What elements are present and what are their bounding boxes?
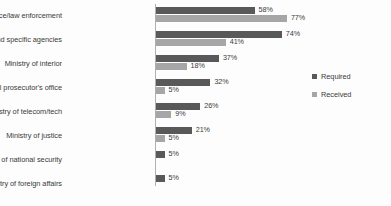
- chart-category-row: National police/law enforcement58%77%: [0, 4, 300, 28]
- category-label: Ministry of national security: [0, 156, 62, 164]
- bar-required: [156, 151, 165, 158]
- category-label: General prosecutor's office: [0, 84, 62, 92]
- bar-chart: National police/law enforcement58%77%Mul…: [0, 0, 391, 206]
- bar-group: 21%5%: [156, 124, 391, 148]
- legend-swatch-icon: [312, 74, 317, 79]
- bar-value-label: 26%: [204, 101, 218, 110]
- bar-required: [156, 79, 210, 86]
- legend-label: Received: [321, 90, 351, 99]
- category-label: Ministry of interior: [0, 60, 62, 68]
- bar-value-label: 77%: [291, 13, 305, 22]
- bar-value-label: 58%: [259, 5, 273, 14]
- legend-swatch-icon: [312, 92, 317, 97]
- bar-value-label: 74%: [286, 29, 300, 38]
- bar-received: [156, 135, 165, 142]
- chart-category-row: Ministry of telecom/tech26%9%: [0, 100, 300, 124]
- legend-label: Required: [321, 72, 351, 81]
- legend-item[interactable]: Required: [312, 70, 351, 83]
- bar-value-label: 32%: [214, 77, 228, 86]
- bar-group: 26%9%: [156, 100, 391, 124]
- category-label: Ministry of justice: [0, 132, 62, 140]
- chart-category-row: Multiple and specific agencies74%41%: [0, 28, 300, 52]
- bar-value-label: 9%: [175, 109, 185, 118]
- chart-legend: RequiredReceived: [312, 70, 351, 106]
- bar-required: [156, 31, 282, 38]
- bar-received: [156, 39, 226, 46]
- bar-group: 58%77%: [156, 4, 391, 28]
- category-label: Multiple and specific agencies: [0, 36, 62, 44]
- bar-value-label: 37%: [223, 53, 237, 62]
- bar-group: 5%: [156, 172, 391, 196]
- bar-required: [156, 55, 219, 62]
- bar-required: [156, 175, 165, 182]
- bar-received: [156, 87, 165, 94]
- category-label: Ministry of telecom/tech: [0, 108, 62, 116]
- bar-value-label: 5%: [169, 85, 179, 94]
- bar-value-label: 5%: [169, 173, 179, 182]
- bar-value-label: 5%: [169, 133, 179, 142]
- chart-category-row: Ministry of justice21%5%: [0, 124, 300, 148]
- bar-value-label: 5%: [169, 149, 179, 158]
- bar-group: 37%18%: [156, 52, 391, 76]
- bar-value-label: 21%: [196, 125, 210, 134]
- bar-group: 5%: [156, 148, 391, 172]
- chart-category-row: Ministry of foreign affairs5%: [0, 172, 300, 196]
- category-label: Ministry of foreign affairs: [0, 180, 62, 188]
- bar-required: [156, 7, 255, 14]
- bar-value-label: 41%: [230, 37, 244, 46]
- bar-received: [156, 63, 187, 70]
- chart-category-row: Ministry of interior37%18%: [0, 52, 300, 76]
- legend-item[interactable]: Received: [312, 88, 351, 101]
- bar-received: [156, 111, 171, 118]
- bar-value-label: 18%: [191, 61, 205, 70]
- bar-received: [156, 15, 287, 22]
- bar-group: 74%41%: [156, 28, 391, 52]
- plot-area: National police/law enforcement58%77%Mul…: [0, 4, 300, 202]
- chart-category-row: Ministry of national security5%: [0, 148, 300, 172]
- chart-category-row: General prosecutor's office32%5%: [0, 76, 300, 100]
- category-label: National police/law enforcement: [0, 12, 62, 20]
- bar-group: 32%5%: [156, 76, 391, 100]
